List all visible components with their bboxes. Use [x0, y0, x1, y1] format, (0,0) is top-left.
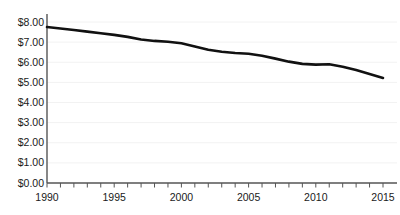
y-axis-tick-label: $1.00: [18, 156, 44, 168]
x-axis-tick-label: 2010: [304, 191, 328, 203]
y-axis-tick-label: $3.00: [18, 116, 44, 128]
y-axis-tick-label: $6.00: [18, 56, 44, 68]
y-axis-tick-label: $8.00: [18, 16, 44, 28]
x-axis-tick-label: 2000: [170, 191, 194, 203]
y-axis-tick-label: $0.00: [18, 177, 44, 189]
y-axis-tick-label: $4.00: [18, 96, 44, 108]
x-axis-tick-label: 1990: [35, 191, 59, 203]
y-axis-tick-labels: $8.00$7.00$6.00$5.00$4.00$3.00$2.00$1.00…: [18, 16, 44, 189]
line-chart: $8.00$7.00$6.00$5.00$4.00$3.00$2.00$1.00…: [0, 0, 400, 215]
x-axis-tick-label: 2005: [237, 191, 261, 203]
chart-axes: [47, 14, 397, 183]
x-axis-tick-label: 1995: [103, 191, 127, 203]
x-axis-tick-label: 2015: [371, 191, 395, 203]
chart-canvas: $8.00$7.00$6.00$5.00$4.00$3.00$2.00$1.00…: [0, 0, 400, 215]
y-axis-tick-label: $2.00: [18, 136, 44, 148]
data-line: [47, 27, 383, 78]
x-axis-tick-labels: 199019952000200520102015: [35, 191, 395, 203]
y-axis-tick-label: $7.00: [18, 36, 44, 48]
y-axis-tick-label: $5.00: [18, 76, 44, 88]
gridlines: [47, 22, 397, 163]
data-series-lines: [47, 27, 383, 78]
